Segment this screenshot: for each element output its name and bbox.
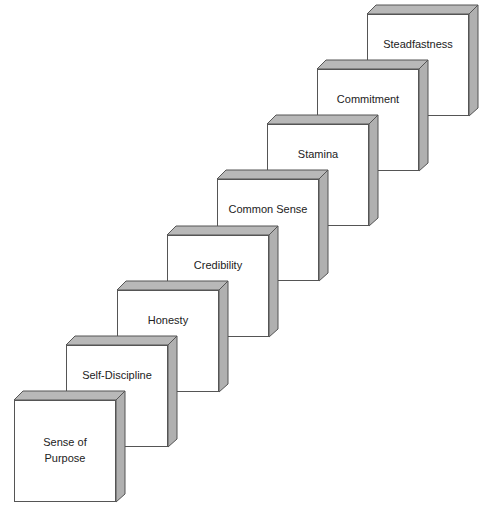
block-label: Sense of Purpose <box>14 400 116 502</box>
block-label-line-1: Sense of <box>43 435 86 451</box>
block-label-line-2: Purpose <box>45 451 86 467</box>
block-sense-of-purpose: Sense of Purpose <box>14 391 126 503</box>
